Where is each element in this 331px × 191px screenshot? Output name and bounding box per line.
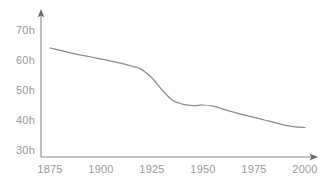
x-tick-label-2000: 2000 [292, 163, 317, 175]
chart-container: 70h 60h 50h 40h 30h 1875 1900 1925 1950 … [0, 0, 331, 191]
x-tick-label-1950: 1950 [190, 163, 215, 175]
y-tick-label-40h: 40h [16, 114, 35, 126]
x-tick-label-1875: 1875 [37, 163, 62, 175]
y-tick-label-30h: 30h [16, 144, 35, 156]
y-tick-label-70h: 70h [16, 24, 35, 36]
y-axis [38, 9, 45, 157]
x-axis [41, 154, 318, 161]
y-tick-labels: 70h 60h 50h 40h 30h [16, 24, 35, 156]
x-tick-label-1900: 1900 [88, 163, 113, 175]
x-tick-labels: 1875 1900 1925 1950 1975 2000 [37, 163, 317, 175]
y-tick-label-50h: 50h [16, 84, 35, 96]
data-series-line [50, 48, 305, 128]
y-tick-label-60h: 60h [16, 54, 35, 66]
line-chart: 70h 60h 50h 40h 30h 1875 1900 1925 1950 … [0, 0, 331, 191]
x-tick-label-1975: 1975 [241, 163, 266, 175]
x-tick-label-1925: 1925 [139, 163, 164, 175]
